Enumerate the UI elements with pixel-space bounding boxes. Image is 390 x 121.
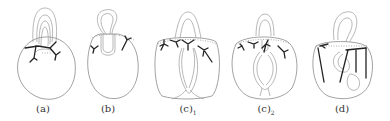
panel-c2-drawing <box>232 14 297 99</box>
panel-c1-drawing <box>155 12 220 99</box>
panel-a-drawing <box>18 8 76 99</box>
panel-label-b: (b) <box>101 103 115 116</box>
panel-d-drawing <box>313 12 373 99</box>
panel-label-c2: (c)2 <box>257 103 274 116</box>
panel-b-drawing <box>88 10 139 99</box>
panel-label-d: (d) <box>335 103 349 116</box>
panel-label-c1: (c)1 <box>179 103 196 116</box>
panel-label-a: (a) <box>36 103 50 116</box>
